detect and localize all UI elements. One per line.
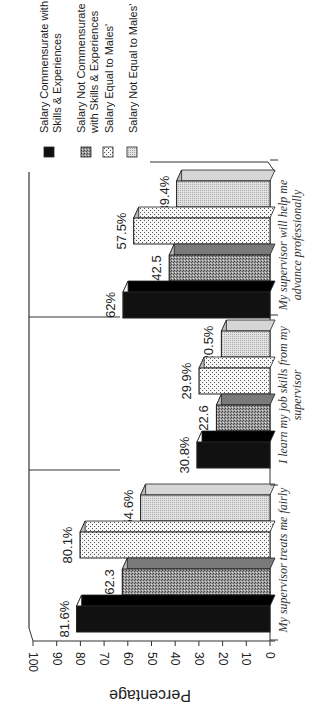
legend-swatch-icon	[103, 147, 113, 157]
bar: 81.6%	[57, 595, 275, 637]
bar: 54.6%	[121, 484, 275, 526]
legend-item: Salary Commensurate withSkills & Experie…	[38, 1, 63, 157]
tick-label: 50	[145, 652, 159, 666]
legend-label: Salary Equal to Males'	[103, 24, 115, 133]
bar-top-face	[141, 484, 275, 495]
tick-label: 0	[263, 652, 277, 659]
category-label: I learn my job skills from my	[276, 326, 290, 465]
bar: 80.1%	[60, 521, 275, 563]
bar-front-face	[169, 255, 270, 281]
legend-swatch-icon	[127, 147, 137, 157]
legend-swatch-icon	[81, 147, 91, 157]
bar-series: 54.6%80.1%62.381.6%20.5%29.9%22.630.8%39…	[57, 170, 275, 637]
bar-top-face	[197, 431, 275, 442]
legend-swatch-icon	[44, 147, 54, 157]
chart-canvas: Salary Commensurate withSkills & Experie…	[0, 0, 329, 709]
value-axis: 0102030405060708090100Percentage	[26, 641, 277, 704]
legend-label: Salary Not Equal to Males'	[127, 4, 139, 133]
bar-top-face	[77, 595, 275, 606]
bar: 42.5	[149, 244, 275, 281]
category-label: My supervisor will help me	[276, 179, 290, 311]
bar-value-label: 81.6%	[57, 600, 72, 637]
bar-value-label: 22.6	[196, 405, 211, 430]
category-axis: My supervisor treats me fairlyI learn my…	[270, 160, 304, 640]
tick-label: 90	[50, 652, 64, 666]
bar-front-face	[141, 495, 270, 521]
legend-item: Salary Not Commensuratewith Skills & Exp…	[75, 3, 100, 157]
category-label: My supervisor treats me fairly	[276, 487, 290, 634]
bar-value-label: 62%	[103, 292, 118, 318]
legend-item: Salary Equal to Males'	[103, 24, 115, 157]
bar-value-label: 57.5%	[114, 212, 129, 249]
bar-front-face	[197, 442, 270, 468]
bar-top-face	[216, 394, 275, 405]
tick-label: 40	[168, 652, 182, 666]
bar-front-face	[80, 532, 270, 558]
bar-value-label: 29.9%	[179, 362, 194, 399]
tick-label: 80	[73, 652, 87, 666]
clustered-bar-chart: Salary Commensurate withSkills & Experie…	[0, 0, 329, 709]
bar-front-face	[77, 606, 270, 632]
tick-label: 30	[192, 652, 206, 666]
legend-item: Salary Not Equal to Males'	[127, 4, 139, 157]
bar-top-face	[221, 320, 275, 331]
category-label: advance professionally	[290, 189, 304, 300]
category-label: supervisor	[290, 369, 304, 420]
corner-line	[29, 628, 33, 641]
tick-label: 10	[239, 652, 253, 666]
bar-front-face	[134, 218, 270, 244]
bar: 39.4%	[157, 170, 275, 212]
bar-value-label: 30.8%	[177, 436, 192, 473]
bar-value-label: 80.1%	[60, 526, 75, 563]
bar-top-face	[199, 357, 275, 368]
bar: 57.5%	[114, 207, 275, 249]
bar-front-face	[221, 331, 270, 357]
y-axis-title: Percentage	[109, 687, 191, 704]
bar-value-label: 42.5	[149, 255, 164, 280]
legend-label: Salary Commensurate with	[38, 1, 50, 133]
bar-top-face	[134, 207, 275, 218]
tick-label: 100	[26, 652, 40, 672]
tick-label: 70	[97, 652, 111, 666]
tick-label: 60	[121, 652, 135, 666]
bar-top-face	[80, 521, 275, 532]
bar: 20.5%	[201, 320, 275, 362]
legend-label: Salary Not Commensurate	[75, 3, 87, 133]
bar-top-face	[123, 281, 275, 292]
bar-top-face	[122, 558, 275, 569]
bar: 62%	[103, 281, 275, 318]
bar: 62.3	[102, 558, 275, 595]
legend-label: with Skills & Experiences	[88, 10, 100, 134]
bar-top-face	[177, 170, 275, 181]
bar: 22.6	[196, 394, 275, 431]
chart-legend: Salary Commensurate withSkills & Experie…	[38, 1, 139, 157]
legend-label: Skills & Experiences	[51, 33, 63, 133]
tick-label: 20	[216, 652, 230, 666]
bar-front-face	[199, 368, 270, 394]
bar: 29.9%	[179, 357, 275, 399]
bar: 30.8%	[177, 431, 275, 473]
bar-top-face	[169, 244, 275, 255]
bar-front-face	[177, 181, 270, 207]
bar-value-label: 62.3	[102, 569, 117, 594]
bar-front-face	[122, 569, 270, 595]
bar-front-face	[123, 292, 270, 318]
bar-front-face	[216, 405, 270, 431]
